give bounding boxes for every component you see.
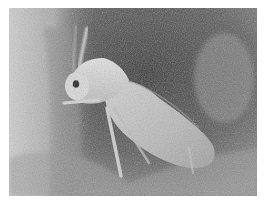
- photo-canvas: [9, 8, 257, 196]
- whitefly-photo: [9, 8, 257, 196]
- grain: [9, 8, 257, 196]
